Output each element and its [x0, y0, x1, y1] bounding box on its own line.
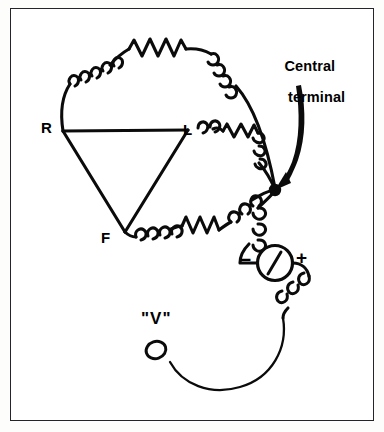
- branch-meter-to-electrode: [170, 263, 309, 390]
- label-meter-plus: +: [296, 248, 307, 268]
- label-central-terminal-line2: terminal: [268, 90, 345, 105]
- diagram-figure: R L F "V" Central terminal − +: [0, 0, 384, 432]
- resistor-right-icon: [223, 124, 258, 137]
- label-right-arm: R: [41, 120, 52, 136]
- inductor-terminal-to-meter-icon: [253, 208, 265, 251]
- einthoven-triangle: [63, 130, 188, 232]
- galvanometer-icon: [258, 246, 293, 281]
- label-central-terminal-line1: Central: [285, 58, 336, 74]
- label-left-arm: L: [183, 122, 192, 138]
- exploring-electrode-icon: [144, 339, 168, 361]
- branch-left-arm: [198, 121, 275, 189]
- label-exploring-electrode: "V": [141, 310, 171, 328]
- branch-right-arm: [62, 39, 275, 188]
- inductor-top-right-icon: [208, 54, 237, 98]
- label-meter-minus: −: [240, 250, 251, 270]
- resistor-top-icon: [129, 39, 186, 56]
- label-foot: F: [101, 230, 110, 246]
- resistor-bottom-icon: [182, 217, 219, 233]
- label-central-terminal: Central terminal: [268, 44, 345, 135]
